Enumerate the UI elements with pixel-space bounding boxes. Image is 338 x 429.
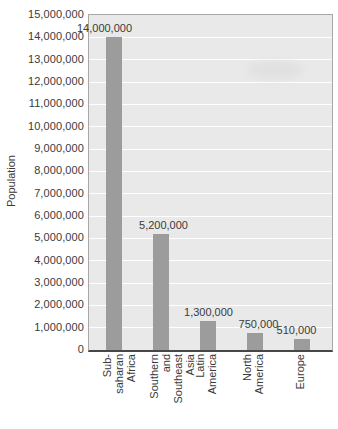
y-tick-label: 12,000,000: [0, 75, 84, 87]
x-tick-label: Sub-saharan Africa: [101, 354, 137, 394]
gridline: [89, 216, 332, 217]
gridline: [89, 149, 332, 150]
gridline: [89, 126, 332, 127]
y-tick-label: 11,000,000: [0, 97, 84, 109]
y-tick-label: 10,000,000: [0, 120, 84, 132]
bar-value-label: 14,000,000: [65, 22, 145, 35]
bar-sub-saharan-africa: [106, 37, 122, 350]
bar-europe: [294, 339, 310, 350]
y-tick-label: 8,000,000: [0, 164, 84, 176]
y-tick-label: 9,000,000: [0, 142, 84, 154]
gridline: [89, 193, 332, 194]
y-tick-label: 7,000,000: [0, 187, 84, 199]
bar-latin-america: [200, 321, 216, 350]
watermark-smudge: [247, 61, 303, 79]
y-tick-label: 4,000,000: [0, 254, 84, 266]
y-tick-label: 13,000,000: [0, 53, 84, 65]
y-tick-label: 15,000,000: [0, 8, 84, 20]
gridline: [89, 238, 332, 239]
bar-value-label: 1,300,000: [169, 306, 249, 319]
gridline: [89, 82, 332, 83]
population-bar-chart: Population 15,000,00014,000,00013,000,00…: [0, 0, 338, 429]
y-axis-title: Population: [5, 143, 17, 219]
y-tick-label: 5,000,000: [0, 231, 84, 243]
gridline: [89, 171, 332, 172]
gridline: [89, 59, 332, 60]
gridline: [89, 283, 332, 284]
gridline: [89, 260, 332, 261]
bar-value-label: 5,200,000: [124, 219, 204, 232]
y-tick-label: 2,000,000: [0, 298, 84, 310]
gridline: [89, 104, 332, 105]
x-tick-label: Latin America: [195, 354, 219, 394]
bar-value-label: 510,000: [257, 324, 337, 337]
bar-southern-and-southeast-asia: [153, 234, 169, 350]
gridline: [89, 37, 332, 38]
y-tick-label: 3,000,000: [0, 276, 84, 288]
x-tick-label: Southern and Southeast Asia: [148, 354, 196, 404]
y-tick-label: 1,000,000: [0, 321, 84, 333]
plot-area: 14,000,0005,200,0001,300,000750,000510,0…: [88, 14, 333, 352]
x-tick-label: Europe: [295, 354, 307, 389]
x-tick-label: North America: [242, 354, 266, 394]
y-tick-label: 0: [0, 343, 84, 355]
y-tick-label: 6,000,000: [0, 209, 84, 221]
